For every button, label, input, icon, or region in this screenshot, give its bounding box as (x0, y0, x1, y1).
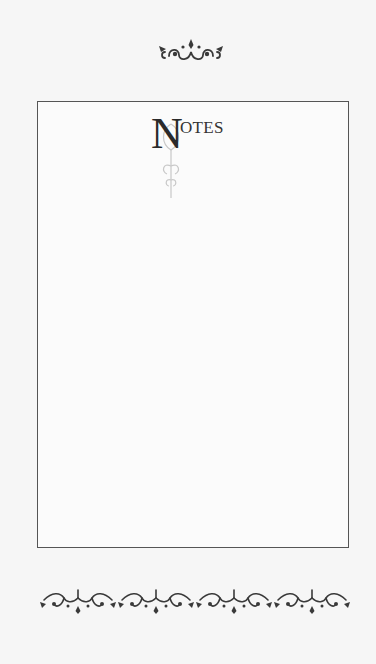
top-flourish-ornament-icon (155, 36, 227, 64)
title-dropcap: N (151, 112, 183, 156)
title-rest: OTES (180, 118, 224, 138)
bottom-flourish-border-icon (38, 586, 354, 616)
page-title: N OTES (151, 112, 241, 202)
